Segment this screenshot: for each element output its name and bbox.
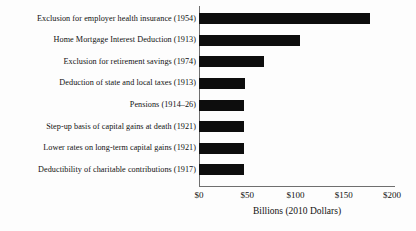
bar (199, 121, 244, 132)
category-axis-labels: Exclusion for employer health insurance … (0, 0, 196, 186)
x-tick-label: $100 (287, 189, 305, 201)
category-label: Pensions (1914–26) (0, 100, 196, 110)
bar (199, 13, 370, 24)
plot-area (199, 6, 395, 186)
x-tick-label: $150 (335, 189, 353, 201)
x-tick-label: $50 (241, 189, 255, 201)
bar (199, 35, 300, 46)
category-label: Exclusion for retirement savings (1974) (0, 57, 196, 67)
category-label: Deduction of state and local taxes (1913… (0, 78, 196, 88)
category-label: Exclusion for employer health insurance … (0, 14, 196, 24)
x-tick-label: $0 (195, 189, 204, 201)
bar (199, 78, 245, 89)
bar-chart: Exclusion for employer health insurance … (0, 0, 416, 231)
bar (199, 100, 244, 111)
bar (199, 164, 244, 175)
category-label: Deductibility of charitable contribution… (0, 165, 196, 175)
bar (199, 143, 244, 154)
x-axis-tick-labels: $0$50$100$150$200 (0, 189, 416, 203)
category-label: Step-up basis of capital gains at death … (0, 122, 196, 132)
x-axis-title: Billions (2010 Dollars) (199, 205, 395, 217)
category-label: Lower rates on long-term capital gains (… (0, 143, 196, 153)
y-axis-line (199, 6, 200, 186)
x-axis-line (199, 186, 395, 187)
x-tick-label: $200 (383, 189, 401, 201)
bar (199, 56, 264, 67)
category-label: Home Mortgage Interest Deduction (1913) (0, 35, 196, 45)
